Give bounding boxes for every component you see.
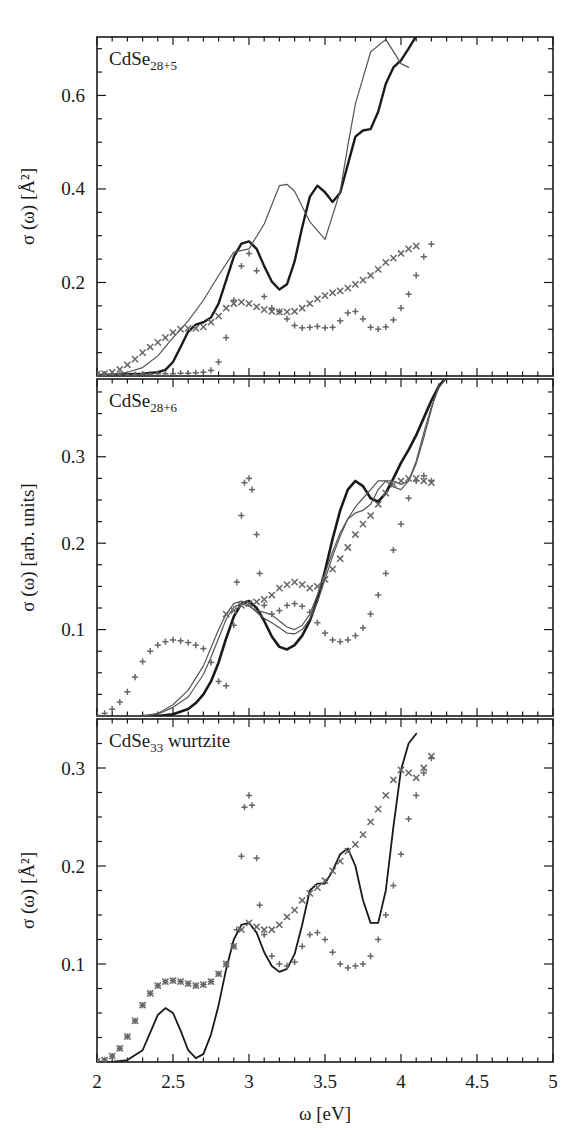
x-tick-label: 3 — [244, 1071, 254, 1092]
x-tick-label: 4 — [396, 1071, 406, 1092]
y-tick-label: 0.6 — [61, 85, 85, 106]
y-tick-label: 0.2 — [61, 272, 85, 293]
x-axis-label: ω [eV] — [299, 1103, 351, 1124]
x-tick-label: 2.5 — [161, 1071, 185, 1092]
y-axis-label: σ (ω) [Å²] — [17, 852, 39, 929]
y-tick-label: 0.2 — [61, 533, 85, 554]
y-tick-label: 0.3 — [61, 446, 85, 467]
y-axis-label: σ (ω) [arb. units] — [17, 483, 39, 611]
y-axis-label: σ (ω) [Å²] — [17, 168, 39, 245]
y-tick-label: 0.2 — [61, 856, 85, 877]
x-tick-label: 4.5 — [465, 1071, 489, 1092]
figure-background — [0, 0, 569, 1143]
y-tick-label: 0.1 — [61, 954, 85, 975]
x-tick-label: 5 — [548, 1071, 558, 1092]
x-tick-label: 2 — [92, 1071, 102, 1092]
x-tick-label: 3.5 — [313, 1071, 337, 1092]
y-tick-label: 0.4 — [61, 178, 85, 199]
absorption-cross-section-figure: 0.20.40.6σ (ω) [Å²]CdSe28+50.10.20.3σ (ω… — [0, 0, 569, 1143]
y-tick-label: 0.3 — [61, 758, 85, 779]
y-tick-label: 0.1 — [61, 619, 85, 640]
